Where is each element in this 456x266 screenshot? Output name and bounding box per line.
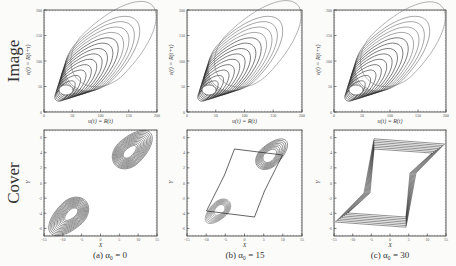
svg-text:150: 150 [36,33,42,38]
plot-canvas: -15-10-5051015-6-4-20246 [44,130,157,236]
svg-text:2: 2 [40,165,42,170]
caption-a: (a) α₀ = 0 [60,250,160,260]
svg-text:100: 100 [179,59,185,64]
y-axis-label: Y [25,152,31,212]
svg-text:6: 6 [183,135,185,140]
x-axis-label: u(t) = R(t) [44,118,157,124]
svg-text:-2: -2 [39,196,42,201]
plot-canvas: -15-10-5051015-6-4-20246 [187,130,302,236]
image-plot-a: 050100150200050100150200u(t) = R(t)v(t) … [44,10,157,112]
svg-text:200: 200 [179,8,185,13]
svg-text:0: 0 [40,110,42,115]
y-axis-label: Y [168,152,174,212]
svg-text:-4: -4 [39,211,42,216]
svg-text:-2: -2 [182,196,185,201]
svg-text:0: 0 [183,181,185,186]
caption-c: (c) α₀ = 30 [340,250,440,260]
svg-text:-4: -4 [182,211,185,216]
x-axis-label: X [44,242,157,248]
cover-plot-a: -15-10-5051015-6-4-20246XY [44,130,157,236]
svg-text:2: 2 [330,165,332,170]
svg-text:0: 0 [330,110,332,115]
svg-text:150: 150 [179,33,185,38]
y-axis-label: v(t) = R(t+τ) [315,30,321,90]
svg-text:2: 2 [183,165,185,170]
x-axis-label: X [187,242,302,248]
svg-text:-6: -6 [182,226,185,231]
svg-text:100: 100 [36,59,42,64]
plot-canvas: 050100150200050100150200 [187,10,302,112]
x-axis-label: u(t) = R(t) [334,118,446,124]
cover-plot-c: -15-10-5051015-6-4-20246XY [334,130,446,236]
svg-text:4: 4 [330,150,332,155]
svg-text:100: 100 [326,59,332,64]
svg-text:50: 50 [328,84,332,89]
y-axis-label: v(t) = R(t+τ) [25,30,31,90]
svg-text:0: 0 [40,181,42,186]
x-axis-label: u(t) = R(t) [187,118,302,124]
row-label-image: Image [0,10,28,112]
svg-text:150: 150 [326,33,332,38]
image-plot-b: 050100150200050100150200u(t) = R(t)v(t) … [187,10,302,112]
svg-text:6: 6 [330,135,332,140]
svg-text:-4: -4 [329,211,332,216]
image-plot-c: 050100150200050100150200Xu(t) = R(t)v(t)… [334,10,446,112]
svg-text:4: 4 [183,150,185,155]
row-label-cover-text: Cover [4,162,24,204]
y-axis-label: v(t) = R(t+τ) [168,30,174,90]
svg-text:-6: -6 [329,226,332,231]
svg-text:0: 0 [183,110,185,115]
row-label-cover: Cover [0,130,28,236]
svg-text:50: 50 [38,84,42,89]
svg-text:6: 6 [40,135,42,140]
caption-b: (b) α₀ = 15 [195,250,295,260]
plot-canvas: 050100150200050100150200X [334,10,446,112]
svg-text:0: 0 [330,181,332,186]
svg-text:-2: -2 [329,196,332,201]
svg-text:200: 200 [326,8,332,13]
cover-plot-b: -15-10-5051015-6-4-20246XY [187,130,302,236]
svg-text:-6: -6 [39,226,42,231]
plot-canvas: 050100150200050100150200 [44,10,157,112]
svg-text:200: 200 [36,8,42,13]
svg-text:50: 50 [181,84,185,89]
y-axis-label: Y [315,152,321,212]
x-axis-label: X [334,242,446,248]
plot-canvas: -15-10-5051015-6-4-20246 [334,130,446,236]
row-label-image-text: Image [4,40,24,82]
svg-text:4: 4 [40,150,42,155]
